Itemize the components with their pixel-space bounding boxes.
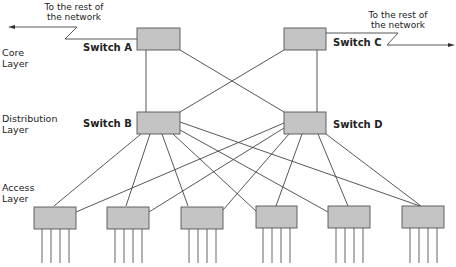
switch-b-label: Switch B: [83, 118, 132, 129]
uplink-left-line1: To the rest of: [40, 2, 108, 12]
layer-access-line2: Layer: [2, 193, 35, 204]
access-switch-6: [402, 206, 444, 228]
uplink-left: [13, 27, 137, 39]
layer-label-core: Core Layer: [2, 47, 29, 69]
link-b-access1: [54, 134, 141, 206]
switch-d-label: Switch D: [333, 119, 382, 130]
link-d-access1: [76, 123, 284, 212]
link-b-access5: [180, 130, 328, 212]
network-diagram: [0, 0, 456, 267]
switch-a-label: Switch A: [83, 42, 132, 53]
access-switch-1: [34, 207, 76, 229]
switch-d: [284, 112, 326, 134]
layer-distribution-line1: Distribution: [2, 113, 57, 124]
uplink-right-line2: the network: [362, 20, 434, 30]
link-d-access2: [149, 128, 284, 212]
access-switch-4: [256, 206, 297, 228]
access-switch-3: [181, 207, 223, 229]
layer-label-access: Access Layer: [2, 182, 35, 204]
uplink-left-line2: the network: [40, 12, 108, 22]
links: [13, 27, 450, 212]
link-b-access2: [126, 134, 150, 206]
access-ports: [42, 228, 437, 263]
uplink-left-label: To the rest of the network: [40, 2, 108, 22]
switch-b: [137, 112, 180, 134]
access-switch-5: [328, 206, 370, 228]
arrow-left-icon: [8, 25, 15, 29]
switch-c: [284, 28, 326, 50]
arrow-right-icon: [448, 43, 455, 47]
layer-core-line1: Core: [2, 47, 29, 58]
switch-c-label: Switch C: [333, 37, 382, 48]
uplink-right-label: To the rest of the network: [362, 10, 434, 30]
link-d-access6: [326, 134, 421, 206]
link-b-access6: [180, 122, 420, 206]
layer-access-line1: Access: [2, 182, 35, 193]
layer-distribution-line2: Layer: [2, 124, 57, 135]
layer-label-distribution: Distribution Layer: [2, 113, 57, 135]
access-switch-2: [107, 207, 149, 229]
layer-core-line2: Layer: [2, 58, 29, 69]
switch-a: [137, 28, 180, 50]
uplink-right-line1: To the rest of: [362, 10, 434, 20]
link-d-access5: [318, 134, 348, 206]
